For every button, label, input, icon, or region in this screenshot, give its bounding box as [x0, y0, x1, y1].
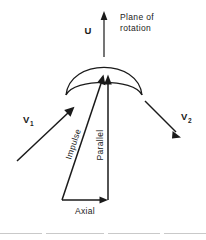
axial-vector — [62, 197, 108, 204]
v1-label-base: V — [23, 114, 30, 125]
blade-speed-label: U — [85, 25, 92, 36]
v1-label-subscript: 1 — [30, 120, 34, 127]
plane-of-rotation-label-line2: rotation — [120, 23, 151, 33]
blade-speed-vector — [101, 11, 108, 57]
impulse-vector-arrowhead — [97, 75, 105, 86]
outlet-velocity-label: V 2 — [181, 111, 192, 124]
v2-vector-shaft — [145, 101, 176, 132]
inlet-velocity-label: V 1 — [23, 114, 34, 127]
v2-vector-arrowhead — [172, 131, 181, 139]
axial-label: Axial — [75, 206, 95, 216]
u-vector-arrowhead — [101, 11, 108, 20]
velocity-vector-diagram: Plane of rotation U V 1 V 2 Impulse Para… — [0, 0, 206, 240]
plane-of-rotation-label-line1: Plane of — [120, 12, 154, 22]
v2-label-subscript: 2 — [188, 117, 192, 124]
parallel-label: Parallel — [95, 130, 105, 161]
figure-root: Plane of rotation U V 1 V 2 Impulse Para… — [0, 0, 206, 240]
parallel-vector — [104, 75, 112, 201]
outlet-velocity-vector — [145, 101, 181, 139]
v2-label-base: V — [181, 111, 188, 122]
axial-vector-arrowhead — [100, 197, 109, 204]
parallel-vector-arrowhead — [104, 75, 112, 85]
